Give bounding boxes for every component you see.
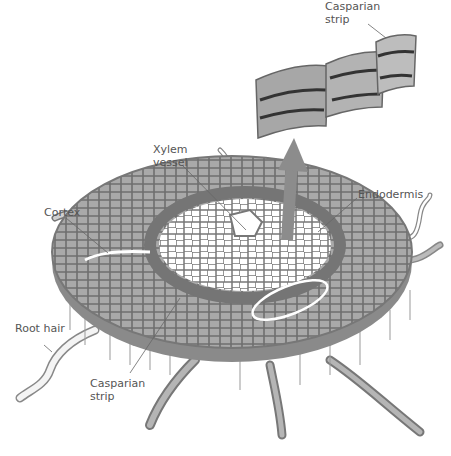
label-xylem-vessel: Xylem vessel — [153, 143, 188, 169]
label-casparian-strip-top: Casparian strip — [325, 0, 380, 26]
casparian-strip-enlarged — [256, 35, 416, 138]
root-cross-section-diagram: Casparian strip Xylem vessel Endodermis … — [0, 0, 451, 456]
label-casparian-strip-bottom: Casparian strip — [90, 377, 145, 403]
diagram-graphic — [0, 0, 451, 456]
label-root-hair: Root hair — [15, 322, 65, 335]
label-endodermis: Endodermis — [358, 188, 423, 201]
label-cortex: Cortex — [44, 206, 80, 219]
